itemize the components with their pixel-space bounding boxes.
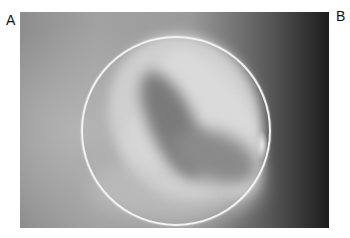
panel-label-b: B	[336, 9, 345, 23]
reflection-glare	[256, 130, 268, 160]
panel-label-a: A	[6, 13, 15, 27]
circular-ring-overlay	[81, 36, 271, 226]
endoscopic-photo	[20, 12, 329, 228]
